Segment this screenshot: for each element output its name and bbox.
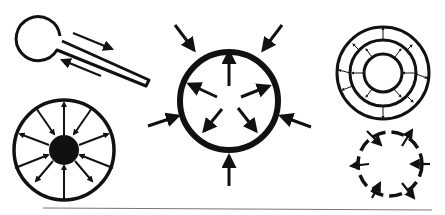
thick-ring-figure	[148, 25, 311, 186]
radial-core-figure	[14, 100, 114, 200]
dashed-ring-figure	[351, 130, 430, 198]
diagram-svg	[0, 0, 445, 215]
concentric-rings-figure	[337, 27, 429, 119]
diagram-canvas	[0, 0, 445, 215]
keyhole-tube-figure	[16, 17, 149, 86]
bottom-rule	[43, 208, 432, 210]
